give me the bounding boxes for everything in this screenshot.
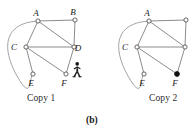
graph-copy-1: ABCDEF [8,7,82,88]
walker-leg-front [77,71,81,77]
edge-AB [38,20,75,21]
vertex-B-unvisited[interactable] [184,18,188,22]
vertex-label-E: E [27,78,34,88]
vertex-label-F: F [171,78,178,88]
edge-AC [26,21,38,47]
copy-2-caption: Copy 2 [149,93,177,103]
vertex-B-unvisited[interactable] [73,18,77,22]
edge-AB [149,20,186,21]
walker-foot-front [79,76,82,77]
copy-1-caption: Copy 1 [27,93,55,103]
vertex-A-unvisited[interactable] [147,19,151,23]
vertex-label-D: D [74,43,82,53]
vertex-label-E: E [138,78,145,88]
edge-DF [177,47,185,74]
vertex-label-A: A [32,8,39,18]
vertex-D-unvisited[interactable] [183,45,187,49]
graph-copy-2: ACEF [119,8,188,88]
vertex-A-unvisited[interactable] [36,19,40,23]
edge-AC [137,21,149,47]
walker-foot-back [73,76,76,77]
edge-DF [66,47,74,74]
graph-drawing-canvas: ABCDEFACEF [0,0,196,136]
walker-torso [76,66,78,72]
vertex-label-A: A [143,8,150,18]
vertex-F-visited[interactable] [175,72,180,77]
walker-icon [73,62,82,77]
vertex-label-B: B [70,7,76,17]
copy-captions-row: Copy 1 Copy 2 [0,93,196,109]
walker-head [75,62,79,66]
edge-AD [38,21,74,47]
edge-BD [185,20,186,47]
vertex-C-unvisited[interactable] [24,45,28,49]
vertex-label-F: F [60,78,67,88]
panel-label: (b) [86,115,98,125]
vertex-F-unvisited[interactable] [64,72,68,76]
vertex-E-unvisited[interactable] [142,72,146,76]
vertex-label-C: C [122,42,129,52]
vertex-label-C: C [11,42,18,52]
graph-figure-panel-b: ABCDEFACEF Copy 1 Copy 2 (b) [0,0,196,136]
vertex-E-unvisited[interactable] [31,72,35,76]
vertex-C-unvisited[interactable] [135,45,139,49]
edge-AD [149,21,185,47]
